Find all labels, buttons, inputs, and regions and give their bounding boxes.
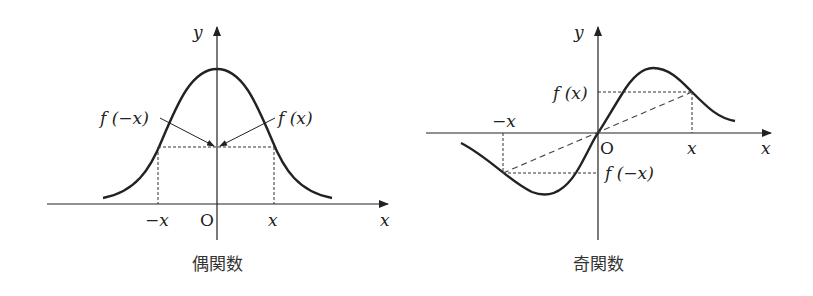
label-pos-x: x [268,210,278,230]
arrow-f-x [220,118,275,146]
label-y-axis: y [192,22,203,42]
label-y-axis: y [573,22,584,42]
label-x-axis: x [761,138,771,158]
label-neg-x: −x [492,111,516,131]
odd-function-diagram: y x O −x x f (x) f (−x) 奇関数 [426,22,771,274]
label-origin: O [600,138,614,158]
label-f-neg-x: f (−x) [98,108,149,128]
even-function-diagram: y x O −x x f (−x) f (x) 偶関数 [47,22,390,274]
caption-odd: 奇関数 [573,254,624,274]
label-f-x: f (x) [551,83,588,103]
label-pos-x: x [687,138,697,158]
figure-canvas: y x O −x x f (−x) f (x) 偶関数 y x O −x x f… [0,0,813,296]
label-f-x: f (x) [276,108,313,128]
caption-even: 偶関数 [192,254,243,274]
arrow-f-neg-x [160,118,214,146]
label-origin: O [200,210,214,230]
label-f-neg-x: f (−x) [603,163,654,183]
label-x-axis: x [380,210,390,230]
label-neg-x: −x [145,210,169,230]
